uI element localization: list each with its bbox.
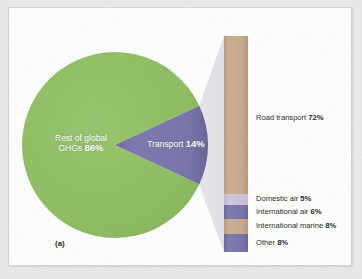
bar-label-other-name: Other — [256, 238, 275, 247]
bar-label-road-value: 72% — [308, 113, 323, 122]
pie-label-rest-value: 86% — [84, 142, 103, 153]
bar-segment-international-marine[interactable] — [224, 219, 248, 234]
bar-label-international-air: International air 6% — [256, 208, 321, 216]
pie-label-rest-of-global-ghgs: Rest of global GHGs 86% — [38, 134, 124, 153]
figure-caption: (a) — [55, 240, 65, 248]
bar-label-other: Other 8% — [256, 239, 288, 247]
bar-segment-road-transport[interactable] — [224, 36, 248, 194]
bar-label-domestic-air: Domestic air 5% — [256, 195, 311, 203]
bar-label-other-value: 8% — [277, 238, 288, 247]
pie-label-transport-name: Transport — [147, 139, 183, 149]
figure-container: Rest of global GHGs 86% Transport 14% Ro… — [0, 0, 362, 279]
bar-label-international-marine: International marine 8% — [256, 222, 336, 230]
bar-label-intl-air-name: International air — [256, 207, 308, 216]
bar-segment-domestic-air[interactable] — [224, 194, 248, 205]
bar-label-road-transport: Road transport 72% — [256, 114, 324, 122]
bar-label-intl-air-value: 6% — [310, 207, 321, 216]
pie-label-rest-line2: GHGs — [58, 143, 82, 153]
bar-label-marine-name: International marine — [256, 221, 323, 230]
pie-label-transport: Transport 14% — [140, 139, 212, 149]
bar-label-road-name: Road transport — [256, 113, 306, 122]
bar-label-domestic-value: 5% — [300, 194, 311, 203]
bar-segment-international-air[interactable] — [224, 205, 248, 219]
bar-label-domestic-name: Domestic air — [256, 194, 298, 203]
bar-label-marine-value: 8% — [325, 221, 336, 230]
pie-label-transport-value: 14% — [186, 138, 205, 149]
bar-segment-other[interactable] — [224, 234, 248, 252]
